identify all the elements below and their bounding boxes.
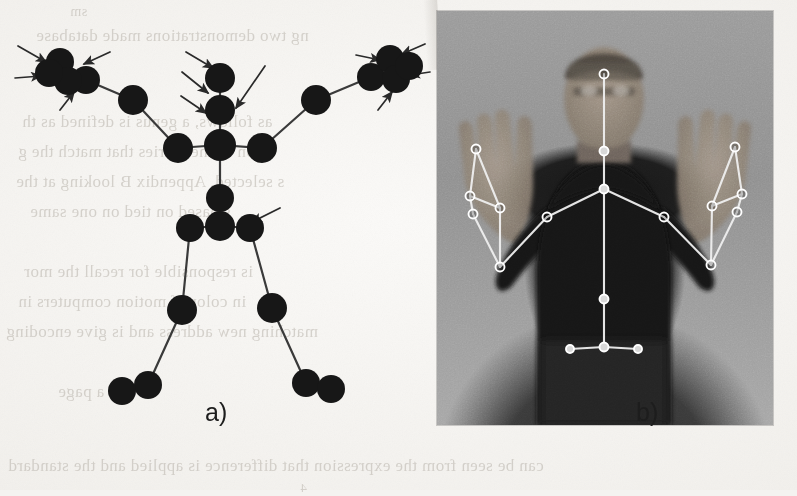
- arrow-hand-right-bottom: [378, 92, 392, 110]
- overlay-bone-hand-right-c-elbow-right: [711, 212, 737, 265]
- overlay-bones: [470, 74, 742, 349]
- joint-elbow-left: [118, 85, 148, 115]
- stick-figure-joints: [35, 45, 423, 405]
- joint-knee-right: [257, 293, 287, 323]
- joint-foot-right: [317, 375, 345, 403]
- overlay-joint-wrist-left: [496, 204, 505, 213]
- overlay-joint-spine-mid: [600, 295, 609, 304]
- overlay-joint-neck: [600, 147, 609, 156]
- arrow-hand-left-top: [18, 46, 46, 62]
- overlay-joint-elbow-right: [707, 261, 716, 270]
- arrow-hand-left-right: [84, 52, 110, 64]
- overlay-joint-hand-left-a: [472, 145, 481, 154]
- overlay-joint-hand-right-c: [733, 208, 742, 217]
- joint-foot-left: [108, 377, 136, 405]
- overlay-joint-hip-center: [600, 343, 609, 352]
- arrow-shoulder-center: [181, 96, 206, 113]
- overlay-joint-shoulder-center: [600, 185, 609, 194]
- overlay-bone-shoulder-right-elbow-right: [664, 217, 711, 265]
- overlay-joints: [466, 70, 747, 354]
- arrow-shoulder-right-top: [236, 66, 265, 108]
- overlay-joint-wrist-right: [708, 202, 717, 211]
- ghost-line-13: 4: [300, 480, 307, 496]
- joint-ankle-right: [292, 369, 320, 397]
- overlay-joint-hand-left-c: [469, 210, 478, 219]
- overlay-joint-hip-left: [566, 345, 574, 353]
- joint-shoulder-center: [204, 129, 236, 161]
- overlay-joint-shoulder-right: [660, 213, 669, 222]
- overlay-bone-shoulder-center-shoulder-left: [547, 189, 604, 217]
- panel-a-caption: a): [205, 398, 227, 427]
- overlay-bone-shoulder-center-shoulder-right: [604, 189, 664, 217]
- joint-hip-right: [236, 214, 264, 242]
- overlay-joint-head: [600, 70, 609, 79]
- overlay-joint-elbow-left: [496, 263, 505, 272]
- arrow-head: [186, 52, 213, 68]
- joint-hip-center: [205, 211, 235, 241]
- overlay-bone-hand-right-a-hand-right-b: [735, 147, 742, 194]
- overlay-joint-shoulder-left: [543, 213, 552, 222]
- overlay-bone-elbow-right-wrist-right: [711, 206, 712, 265]
- joint-neck: [205, 95, 235, 125]
- joint-knee-left: [167, 295, 197, 325]
- skeleton-overlay: [437, 11, 773, 425]
- panel-b-photograph: [437, 11, 773, 425]
- joint-hip-left: [176, 214, 204, 242]
- overlay-bone-hand-left-c-elbow-left: [473, 214, 500, 267]
- joint-hand-right-c: [395, 52, 423, 80]
- joint-spine-mid: [206, 184, 234, 212]
- joint-hand-left-c: [35, 59, 63, 87]
- panel-a-stick-figure: [0, 0, 437, 440]
- joint-shoulder-left: [163, 133, 193, 163]
- panel-b-caption: b): [636, 398, 658, 427]
- overlay-joint-hand-right-a: [731, 143, 740, 152]
- overlay-joint-hand-left-b: [466, 192, 475, 201]
- overlay-bone-shoulder-left-elbow-left: [500, 217, 547, 267]
- joint-shoulder-right: [247, 133, 277, 163]
- joint-head: [205, 63, 235, 93]
- arrow-neck: [182, 72, 208, 93]
- joint-elbow-right: [301, 85, 331, 115]
- overlay-joint-hip-right: [634, 345, 642, 353]
- ghost-line-10: can be seen from the expression that dif…: [8, 456, 544, 476]
- overlay-joint-hand-right-b: [738, 190, 747, 199]
- overlay-bone-hand-left-a-hand-left-b: [470, 149, 476, 196]
- joint-ankle-left: [134, 371, 162, 399]
